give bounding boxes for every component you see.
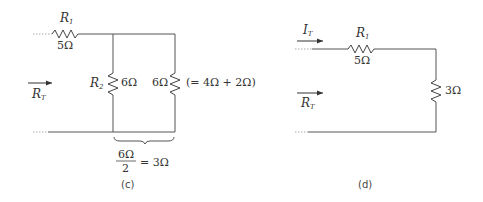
it-label: IT [302, 23, 314, 38]
circuit-diagrams: R1 5Ω R2 6Ω 6Ω (= 4Ω + 2Ω) RT 6Ω 2 = 3Ω … [0, 0, 483, 202]
r1-value: 5Ω [57, 39, 73, 52]
r3-note: (= 4Ω + 2Ω) [186, 76, 256, 89]
r1-label: R1 [59, 11, 74, 26]
r2-value: 6Ω [121, 76, 137, 89]
brace [114, 137, 174, 144]
resistor-r1 [348, 45, 374, 53]
r2-label: R2 [89, 76, 104, 91]
caption-c: (c) [121, 179, 134, 190]
diagram-d: IT RT R1 5Ω 3Ω (d) [295, 23, 461, 190]
brace-denominator: 2 [122, 162, 129, 175]
resistor-r3 [170, 73, 180, 95]
r3-value: 6Ω [152, 76, 168, 89]
resistor-r1 [52, 30, 78, 38]
r1-value: 5Ω [354, 54, 370, 67]
brace-result: = 3Ω [140, 156, 169, 169]
resistor-r2 [108, 73, 118, 95]
caption-d: (d) [358, 179, 372, 190]
rt-label: RT [31, 87, 47, 102]
diagram-c: R1 5Ω R2 6Ω 6Ω (= 4Ω + 2Ω) RT 6Ω 2 = 3Ω … [28, 11, 256, 190]
rt-label: RT [300, 96, 316, 111]
resistor-req [431, 80, 441, 102]
req-value: 3Ω [445, 84, 461, 97]
brace-numerator: 6Ω [118, 148, 134, 161]
r1-label: R1 [355, 26, 370, 41]
